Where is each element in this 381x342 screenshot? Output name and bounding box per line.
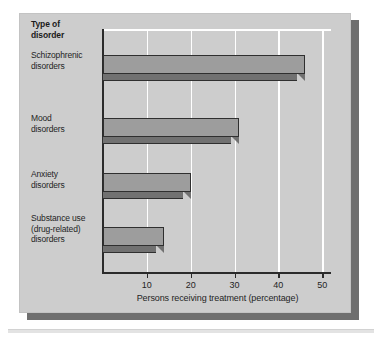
category-label-line: disorders [31,180,106,191]
x-axis-line [102,272,331,274]
category-header-line2: disorder [31,30,103,41]
tick-label-50: 50 [307,280,337,290]
category-label-line: (drug-related) [31,224,106,235]
bar-face [103,173,191,192]
bar-bottom-face [102,192,183,199]
tick-mark-10 [147,273,149,278]
gridline-50 [322,29,324,272]
tick-label-20: 20 [176,280,206,290]
tick-mark-30 [235,273,237,278]
category-label-line: Schizophrenic [31,50,106,61]
bar-end-bevel [298,74,305,81]
bar-face [103,227,164,246]
tick-mark-50 [322,273,324,278]
tick-label-10: 10 [132,280,162,290]
category-label-line: disorders [31,234,106,245]
bar-bottom-face [102,246,156,253]
category-label-anxiety: Anxiety disorders [31,169,106,190]
x-axis-title: Persons receiving treatment (percentage) [103,293,332,303]
bar-face [103,55,305,74]
bar-bottom-face [102,74,297,81]
bar [103,227,164,246]
category-label-line: Mood [31,113,106,124]
bar-end-bevel [157,246,164,253]
tick-mark-20 [191,273,193,278]
bar [103,55,305,74]
category-header-line1: Type of [31,19,103,30]
tick-label-40: 40 [263,280,293,290]
category-label-line: Anxiety [31,169,106,180]
bottom-rule [8,329,374,333]
plot-top-border [104,29,331,31]
bar [103,173,191,192]
category-label-schizophrenic: Schizophrenic disorders [31,50,106,71]
category-label-line: disorders [31,124,106,135]
category-label-line: disorders [31,61,106,72]
category-label-substance-use: Substance use (drug-related) disorders [31,213,106,245]
bar-bottom-face [102,137,231,144]
tick-mark-40 [278,273,280,278]
tick-label-30: 30 [220,280,250,290]
category-label-mood: Mood disorders [31,113,106,134]
bar-face [103,118,239,137]
bar [103,118,239,137]
chart-figure: Type of disorder Schizophrenic disorders… [0,0,381,342]
bar-end-bevel [232,137,239,144]
category-axis-header: Type of disorder [31,19,103,40]
category-label-line: Substance use [31,213,106,224]
bar-end-bevel [184,192,191,199]
